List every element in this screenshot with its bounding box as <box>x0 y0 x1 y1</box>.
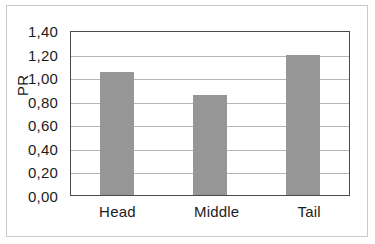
bar-chart-figure: PR 0,000,200,400,600,801,001,201,40 Head… <box>0 0 375 244</box>
y-axis-tick-label: 0,80 <box>28 93 58 110</box>
y-axis-tick-label: 0,20 <box>28 164 58 181</box>
y-axis-tick-label: 1,00 <box>28 70 58 87</box>
y-axis-tick-label: 0,60 <box>28 117 58 134</box>
x-axis-category-label: Head <box>99 203 136 220</box>
y-axis-tick-label: 0,00 <box>28 188 58 205</box>
y-axis-tick-label: 1,40 <box>28 23 58 40</box>
bar-series <box>71 32 349 195</box>
bar <box>193 95 227 195</box>
y-axis-tick-label: 0,40 <box>28 140 58 157</box>
x-axis-category-label: Middle <box>194 203 239 220</box>
x-axis-category-label: Tail <box>298 203 321 220</box>
y-axis-tick-labels: 0,000,200,400,600,801,001,201,40 <box>0 31 64 196</box>
plot-area <box>70 31 350 196</box>
x-axis-category-labels: HeadMiddleTail <box>70 203 350 220</box>
y-axis-tick-label: 1,20 <box>28 46 58 63</box>
bar <box>286 55 320 195</box>
bar <box>100 72 134 195</box>
